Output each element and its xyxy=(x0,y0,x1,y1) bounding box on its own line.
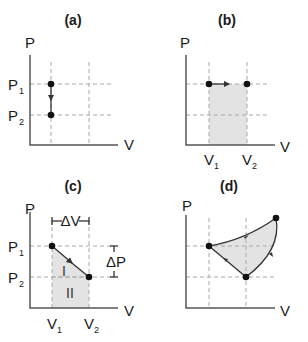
svg-text:P: P xyxy=(8,76,18,93)
panel-c-tick-v2: V 2 xyxy=(84,315,99,335)
panel-b-title: (b) xyxy=(218,12,236,28)
panel-d-x-axis-label: V xyxy=(280,302,290,319)
panel-a-point-end xyxy=(48,112,55,119)
svg-text:V: V xyxy=(204,151,214,168)
panel-b-x-axis-label: V xyxy=(280,138,290,155)
panel-b: (b) P V V 1 V 2 xyxy=(180,12,290,171)
svg-text:2: 2 xyxy=(252,161,257,171)
panel-c-x-axis-label: V xyxy=(124,302,134,319)
panel-c-tick-p1: P 1 xyxy=(8,238,24,258)
svg-text:1: 1 xyxy=(214,161,219,171)
panel-d-title: (d) xyxy=(220,178,238,194)
panel-d-cycle-area xyxy=(209,218,277,277)
svg-text:1: 1 xyxy=(19,248,24,258)
panel-a-tick-p2: P 2 xyxy=(8,107,24,127)
panel-c-title: (c) xyxy=(64,178,81,194)
panel-a-y-axis-label: P xyxy=(25,34,35,51)
panel-c-delta-p-label: ΔP xyxy=(106,253,126,270)
svg-text:V: V xyxy=(242,151,252,168)
panel-a: (a) P V P 1 P 2 xyxy=(8,12,134,153)
panel-d-point-left xyxy=(206,243,213,250)
panel-d-point-top xyxy=(273,215,280,222)
panel-b-point-end xyxy=(244,81,251,88)
panel-a-point-start xyxy=(48,81,55,88)
svg-text:V: V xyxy=(84,315,94,332)
panel-c-point-end xyxy=(86,274,93,281)
svg-text:P: P xyxy=(8,107,18,124)
panel-c-tick-p2: P 2 xyxy=(8,269,24,289)
svg-text:2: 2 xyxy=(19,117,24,127)
panel-c-region-i-label: I xyxy=(62,263,66,279)
svg-text:1: 1 xyxy=(19,86,24,96)
panel-b-tick-v2: V 2 xyxy=(242,151,257,171)
panel-c-delta-v-bracket: ΔV xyxy=(52,212,89,229)
figure-canvas: (a) P V P 1 P 2 (b) P V V 1 xyxy=(0,0,308,342)
panel-d-point-bottom xyxy=(243,274,250,281)
panel-c-tick-v1: V 1 xyxy=(47,315,62,335)
panel-c-delta-p-bracket: ΔP xyxy=(106,246,126,277)
panel-a-tick-p1: P 1 xyxy=(8,76,24,96)
panel-c-point-start xyxy=(49,243,56,250)
panel-d-y-axis-label: P xyxy=(182,197,192,214)
svg-text:2: 2 xyxy=(94,325,99,335)
svg-text:P: P xyxy=(8,269,18,286)
svg-text:V: V xyxy=(47,315,57,332)
svg-text:P: P xyxy=(8,238,18,255)
panel-c-region-ii-label: II xyxy=(66,285,74,301)
panel-b-y-axis-label: P xyxy=(180,34,190,51)
panel-b-tick-v1: V 1 xyxy=(204,151,219,171)
panel-a-title: (a) xyxy=(64,12,81,28)
panel-b-point-start xyxy=(206,81,213,88)
panel-c: (c) P V P 1 P 2 V 1 V 2 Δ xyxy=(8,178,134,335)
panel-c-delta-v-label: ΔV xyxy=(60,212,80,229)
svg-text:2: 2 xyxy=(19,279,24,289)
panel-d: (d) P V xyxy=(182,178,290,319)
panel-a-axes xyxy=(30,55,118,145)
panel-a-x-axis-label: V xyxy=(124,136,134,153)
svg-text:1: 1 xyxy=(57,325,62,335)
